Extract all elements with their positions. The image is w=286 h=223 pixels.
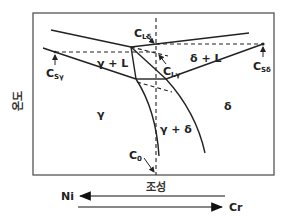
ni-label: Ni	[61, 190, 74, 203]
label-c0: C0	[129, 149, 142, 163]
label-c-s-delta: CSδ	[253, 60, 271, 74]
cr-label: Cr	[229, 201, 243, 214]
phase-delta-l: δ + L	[190, 52, 221, 65]
phase-delta: δ	[224, 100, 232, 113]
delta-solvus-curve	[166, 79, 205, 153]
phase-gamma: γ	[97, 108, 105, 121]
phase-gamma-l: γ + L	[97, 57, 128, 70]
phase-diagram: γ + L δ + L γ δ γ + δ CLδ CLγ CSγ CSδ C0…	[0, 0, 286, 223]
y-axis-label: 온도	[12, 91, 25, 111]
phase-gamma-delta: γ + δ	[160, 123, 192, 136]
x-axis-label: 조성	[146, 180, 166, 194]
label-c-l-gamma: CLγ	[163, 65, 181, 79]
label-c-l-delta: CLδ	[134, 27, 152, 41]
c0-pointer	[144, 158, 154, 172]
label-c-s-gamma: CSγ	[46, 67, 64, 81]
gamma-liquidus-line	[51, 30, 131, 47]
plot-frame	[33, 13, 274, 175]
c-l-gamma-pointer	[159, 55, 166, 64]
